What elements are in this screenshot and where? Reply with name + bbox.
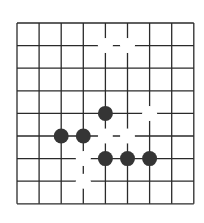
- white-stone: [98, 129, 113, 144]
- black-stone: [98, 151, 113, 166]
- black-stone: [142, 151, 157, 166]
- black-stone: [98, 106, 113, 121]
- black-stone: [120, 151, 135, 166]
- white-stone: [120, 129, 135, 144]
- white-stone: [98, 38, 113, 53]
- white-stone: [76, 151, 91, 166]
- go-board[interactable]: [0, 0, 204, 223]
- white-stone: [76, 174, 91, 189]
- black-stone: [76, 129, 91, 144]
- black-stone: [54, 129, 69, 144]
- white-stone: [120, 38, 135, 53]
- white-stone: [142, 106, 157, 121]
